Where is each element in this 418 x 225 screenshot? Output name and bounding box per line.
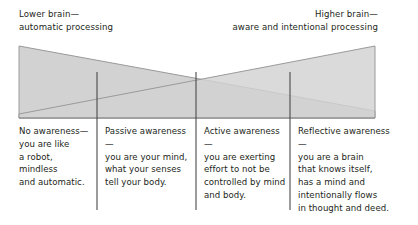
column-no-awareness: No awareness— you are like a robot, mind…	[19, 125, 93, 189]
column-active-awareness: Active awareness— you are exerting effor…	[204, 125, 286, 202]
lower-brain-header: Lower brain— automatic processing	[19, 8, 113, 33]
higher-brain-header: Higher brain— aware and intentional proc…	[233, 8, 378, 33]
column-passive-awareness: Passive awareness— you are your mind, wh…	[105, 125, 189, 189]
column-reflective-awareness: Reflective awareness— you are a brain th…	[298, 125, 392, 215]
